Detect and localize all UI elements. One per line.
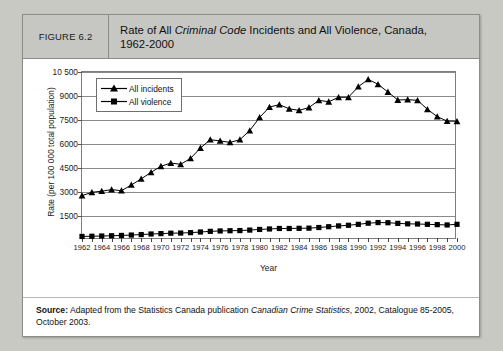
- plot-region: 15003000450060007500900010 500 196219641…: [81, 71, 456, 239]
- x-tick-label: 1982: [271, 243, 288, 252]
- x-tick-label: 1986: [310, 243, 327, 252]
- figure-header: FIGURE 6.2 Rate of All Criminal Code Inc…: [23, 15, 479, 59]
- screenshot-root: FIGURE 6.2 Rate of All Criminal Code Inc…: [0, 0, 503, 351]
- data-point-marker: [375, 220, 380, 225]
- x-tick-label: 1966: [113, 243, 130, 252]
- x-tick-label: 1984: [291, 243, 308, 252]
- source-label: Source:: [36, 305, 68, 315]
- data-point-marker: [286, 105, 293, 111]
- data-point-marker: [434, 113, 441, 119]
- x-tick-label: 1974: [192, 243, 209, 252]
- data-point-marker: [158, 231, 163, 236]
- x-tick-label: 1998: [429, 243, 446, 252]
- data-point-marker: [346, 223, 351, 228]
- data-point-marker: [375, 81, 382, 87]
- data-point-marker: [79, 192, 86, 198]
- data-point-marker: [287, 226, 292, 231]
- y-tick-label: 6000: [60, 139, 78, 149]
- data-point-marker: [415, 221, 420, 226]
- data-point-marker: [138, 175, 145, 181]
- data-point-marker: [315, 97, 322, 103]
- legend-item-all-violence: All violence: [101, 95, 174, 108]
- data-point-marker: [326, 224, 331, 229]
- x-tick-label: 1968: [133, 243, 150, 252]
- data-point-marker: [276, 101, 283, 107]
- data-point-marker: [445, 222, 450, 227]
- y-tick-label: 9000: [60, 91, 78, 101]
- data-point-marker: [454, 222, 459, 227]
- data-point-marker: [227, 228, 232, 233]
- data-point-marker: [356, 222, 361, 227]
- figure-title-italic: Criminal Code: [175, 24, 247, 36]
- x-tick-label: 1964: [93, 243, 110, 252]
- data-point-marker: [167, 160, 174, 166]
- data-point-marker: [247, 227, 252, 232]
- y-axis-title: Rate (per 100 000 total population): [46, 62, 56, 242]
- data-point-marker: [108, 186, 115, 192]
- y-tick-label: 4500: [60, 163, 78, 173]
- x-tick-label: 1972: [172, 243, 189, 252]
- data-point-marker: [425, 222, 430, 227]
- x-tick-label: 1970: [152, 243, 169, 252]
- data-point-marker: [306, 226, 311, 231]
- data-point-marker: [119, 233, 124, 238]
- x-tick-label: 1980: [251, 243, 268, 252]
- data-point-marker: [139, 232, 144, 237]
- legend-label-all-incidents: All incidents: [127, 84, 174, 94]
- x-tick-label: 1992: [370, 243, 387, 252]
- data-point-marker: [89, 234, 94, 239]
- data-point-marker: [385, 220, 390, 225]
- data-point-marker: [435, 222, 440, 227]
- y-tick-label: 10 500: [53, 67, 78, 77]
- data-point-marker: [267, 226, 272, 231]
- data-point-marker: [109, 233, 114, 238]
- data-point-marker: [99, 233, 104, 238]
- x-tick-label: 1996: [409, 243, 426, 252]
- data-point-marker: [306, 104, 313, 110]
- y-tick-label: 3000: [60, 187, 78, 197]
- source-text-part1: Adapted from the Statistics Canada publi…: [68, 305, 251, 315]
- data-point-marker: [366, 221, 371, 226]
- data-point-marker: [365, 76, 372, 82]
- data-point-marker: [277, 226, 282, 231]
- figure-title-line2: 1962-2000: [120, 38, 174, 50]
- legend-label-all-violence: All violence: [127, 97, 171, 107]
- data-point-marker: [198, 229, 203, 234]
- x-tick-label: 1976: [212, 243, 229, 252]
- data-point-marker: [208, 229, 213, 234]
- x-axis-title: Year: [81, 263, 456, 273]
- x-tick-label: 1990: [350, 243, 367, 252]
- x-tick-mark: [457, 238, 458, 242]
- square-marker-icon: [101, 96, 127, 107]
- x-tick-label: 1988: [330, 243, 347, 252]
- data-point-marker: [79, 234, 84, 239]
- legend-item-all-incidents: All incidents: [101, 82, 174, 95]
- data-point-marker: [168, 231, 173, 236]
- data-point-marker: [148, 169, 155, 175]
- data-point-marker: [297, 226, 302, 231]
- chart-area: Rate (per 100 000 total population) 1500…: [23, 59, 479, 291]
- figure-title: Rate of All Criminal Code Incidents and …: [109, 15, 479, 58]
- data-point-marker: [395, 221, 400, 226]
- y-tick-label: 1500: [60, 211, 78, 221]
- data-point-marker: [237, 228, 242, 233]
- figure-number-label: FIGURE 6.2: [23, 15, 109, 58]
- x-tick-label: 2000: [449, 243, 466, 252]
- data-point-marker: [128, 182, 135, 188]
- source-text-italic: Canadian Crime Statistics: [251, 305, 350, 315]
- figure-title-part2: Incidents and All Violence, Canada,: [246, 24, 427, 36]
- data-point-marker: [188, 230, 193, 235]
- x-tick-label: 1994: [389, 243, 406, 252]
- source-note: Source: Adapted from the Statistics Cana…: [23, 297, 479, 336]
- y-tick-label: 7500: [60, 115, 78, 125]
- data-point-marker: [257, 227, 262, 232]
- figure-container: FIGURE 6.2 Rate of All Criminal Code Inc…: [22, 14, 480, 337]
- data-point-marker: [148, 231, 153, 236]
- figure-title-part1: Rate of All: [120, 24, 175, 36]
- triangle-marker-icon: [101, 83, 127, 94]
- data-point-marker: [405, 221, 410, 226]
- data-point-marker: [336, 223, 341, 228]
- x-tick-label: 1978: [231, 243, 248, 252]
- chart-legend: All incidents All violence: [96, 78, 182, 112]
- x-tick-label: 1962: [74, 243, 91, 252]
